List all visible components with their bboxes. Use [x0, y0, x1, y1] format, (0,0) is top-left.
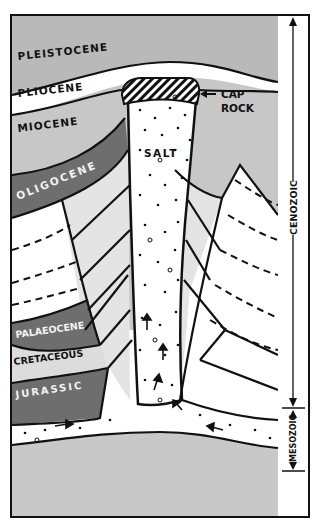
- label-salt: SALT: [144, 147, 178, 159]
- label-cap-rock-2: ROCK: [221, 102, 255, 114]
- basement: [12, 432, 278, 516]
- label-mesozoic: MESOZOIC: [289, 414, 298, 462]
- label-cap-rock-1: CAP: [221, 88, 245, 100]
- cap-rock: [122, 78, 199, 104]
- salt-dome-diagram: PLEISTOCENE PLIOCENE MIOCENE OLIGOCENE P…: [0, 0, 320, 527]
- label-cenozoic: CENOZOIC: [288, 180, 299, 235]
